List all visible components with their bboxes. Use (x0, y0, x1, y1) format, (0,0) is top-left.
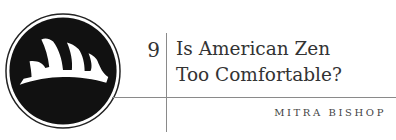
chapter-title: Is American Zen Too Comfortable? (176, 36, 342, 88)
chapter-number: 9 (140, 38, 160, 62)
zen-emblem-icon (4, 12, 122, 130)
chapter-title-line-2: Too Comfortable? (176, 62, 342, 88)
horizontal-rule (112, 97, 396, 98)
vertical-rule (166, 33, 167, 132)
chapter-author: MITRA BISHOP (274, 107, 386, 118)
chapter-title-line-1: Is American Zen (176, 36, 342, 62)
